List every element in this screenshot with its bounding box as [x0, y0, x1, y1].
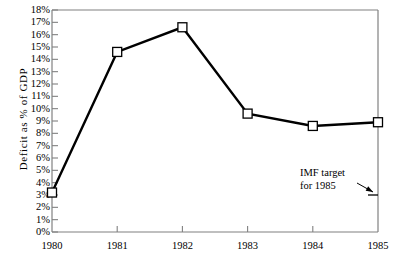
- annotation-arrow-head: [366, 186, 373, 192]
- data-point-marker: [48, 188, 57, 197]
- deficit-line-chart: Deficit as % of GDP 0%1%2%3%4%5%6%7%8%9%…: [0, 0, 397, 262]
- data-point-marker: [243, 109, 252, 118]
- imf-target-annotation-line-2: for 1985: [300, 179, 345, 192]
- imf-target-annotation: IMF target for 1985: [300, 166, 345, 192]
- data-point-marker: [308, 121, 317, 130]
- data-point-marker: [113, 47, 122, 56]
- data-point-marker: [178, 23, 187, 32]
- plot-area: [0, 0, 397, 262]
- data-point-marker: [374, 118, 383, 127]
- imf-target-annotation-line-1: IMF target: [300, 166, 345, 179]
